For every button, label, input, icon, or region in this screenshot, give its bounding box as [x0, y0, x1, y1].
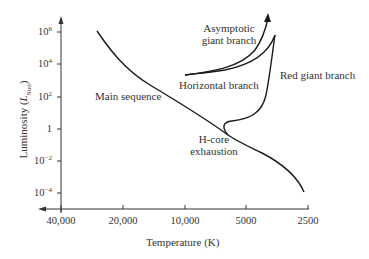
x-axis-title: Temperature (K) [146, 236, 219, 248]
label-h-core-exhaustion: H-coreexhaustion [184, 133, 244, 157]
label-asymptotic-giant-branch: Asymptoticgiant branch [190, 22, 268, 46]
y-tick-label-1e-4: 10−4 [12, 187, 52, 199]
x-axis-arrow-icon [38, 207, 46, 212]
label-horizontal-branch: Horizontal branch [179, 79, 259, 91]
y-axis-arrow-icon [59, 16, 64, 24]
y-tick-label-1e6: 106 [12, 26, 52, 38]
agb-arrow-icon [264, 13, 271, 22]
x-tick-label-5000: 5000 [221, 215, 271, 227]
x-tick-label-40000: 40,000 [36, 215, 86, 227]
y-tick-marks [57, 32, 61, 193]
x-tick-label-10000: 10,000 [160, 215, 210, 227]
label-red-giant-branch: Red giant branch [280, 69, 355, 81]
y-axis-title: Luminosity (LSun) [17, 65, 32, 175]
x-tick-label-2500: 2500 [283, 215, 333, 227]
x-tick-label-20000: 20,000 [98, 215, 148, 227]
label-main-sequence: Main sequence [95, 90, 161, 102]
main-sequence-curve [97, 31, 304, 192]
